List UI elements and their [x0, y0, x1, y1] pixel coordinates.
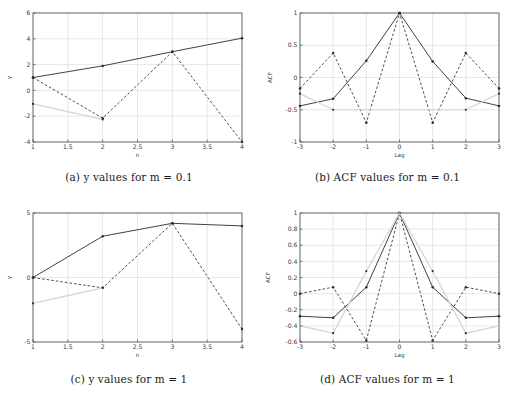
- x-axis-label: Lag: [394, 152, 405, 159]
- data-point-marker: [398, 12, 401, 15]
- y-tick-label: 0: [294, 290, 298, 297]
- axis-ticks: -3-2-10123-1-0.500.51: [286, 9, 502, 150]
- x-tick-label: 3.5: [202, 143, 212, 150]
- grid-lines: [33, 213, 242, 342]
- y-tick-label: -0.2: [286, 306, 298, 313]
- data-point-marker: [102, 287, 104, 289]
- isolated-data-marker: [299, 93, 301, 95]
- data-point-marker: [101, 235, 104, 238]
- plot-a-svg: 11.522.533.54-4-20246ny: [0, 0, 258, 170]
- data-point-marker: [299, 315, 302, 318]
- isolated-data-marker: [365, 270, 367, 272]
- data-point-marker: [32, 103, 34, 105]
- x-tick-label: 2: [464, 343, 468, 350]
- y-tick-label: 0.8: [288, 225, 298, 232]
- y-tick-label: -0.6: [286, 338, 298, 345]
- x-tick-label: 3: [170, 143, 174, 150]
- x-tick-label: 2.5: [133, 143, 143, 150]
- x-tick-label: -1: [363, 143, 369, 150]
- x-tick-label: -2: [330, 343, 336, 350]
- axis-ticks: 11.522.533.54-4-20246: [24, 9, 244, 150]
- y-tick-label: 0.6: [288, 241, 298, 248]
- x-tick-label: -1: [363, 343, 369, 350]
- x-tick-label: -3: [297, 143, 303, 150]
- isolated-data-marker: [332, 109, 334, 111]
- y-tick-label: -0.5: [286, 106, 298, 113]
- plot-d-canvas: -3-2-10123-0.6-0.4-0.200.20.40.60.81LagA…: [258, 200, 517, 372]
- caption-b: (b) ACF values for m = 0.1: [258, 171, 517, 183]
- data-point-marker: [332, 98, 335, 101]
- data-point-marker: [498, 292, 501, 295]
- data-point-marker: [171, 222, 174, 225]
- x-tick-label: 3: [497, 143, 501, 150]
- y-tick-label: 2: [27, 61, 31, 68]
- y-tick-label: 4: [27, 35, 31, 42]
- x-tick-label: 2: [101, 143, 105, 150]
- grid-lines: [33, 13, 242, 142]
- data-point-marker: [332, 286, 335, 289]
- data-point-marker: [365, 121, 368, 124]
- y-tick-label: -5: [24, 338, 30, 345]
- y-tick-label: 1: [294, 9, 298, 16]
- y-tick-label: -4: [24, 138, 30, 145]
- grid-lines: [300, 213, 499, 342]
- data-point-marker: [431, 286, 434, 289]
- x-tick-label: 1.5: [63, 343, 73, 350]
- plot-b-canvas: -3-2-10123-1-0.500.51LagACF: [258, 0, 517, 170]
- x-tick-label: 3.5: [202, 343, 212, 350]
- data-point-marker: [32, 302, 34, 304]
- y-axis-label: y: [6, 75, 13, 79]
- isolated-data-marker: [465, 109, 467, 111]
- y-axis-label: ACF: [267, 72, 273, 83]
- data-point-marker: [241, 225, 244, 228]
- data-point-marker: [299, 87, 302, 90]
- x-axis-label: n: [136, 352, 140, 358]
- caption-a: (a) y values for m = 0.1: [0, 171, 258, 183]
- data-point-marker: [332, 317, 335, 320]
- plot-b-svg: -3-2-10123-1-0.500.51LagACF: [258, 0, 517, 170]
- axis-ticks: -3-2-10123-0.6-0.4-0.200.20.40.60.81: [286, 209, 502, 350]
- y-tick-label: 1: [294, 209, 298, 216]
- y-tick-label: -2: [24, 112, 30, 119]
- subfigure-c: 11.522.533.54-505ny (c) y values for m =…: [0, 200, 258, 403]
- x-tick-label: 0: [398, 143, 402, 150]
- data-point-marker: [299, 105, 302, 108]
- data-point-marker: [241, 37, 244, 40]
- plot-a-canvas: 11.522.533.54-4-20246ny: [0, 0, 258, 170]
- data-point-marker: [32, 76, 35, 79]
- x-tick-label: 1: [31, 143, 35, 150]
- x-axis-label: n: [136, 152, 140, 158]
- y-tick-label: 0.4: [288, 258, 298, 265]
- x-tick-label: 1: [431, 343, 435, 350]
- figure-grid: 11.522.533.54-4-20246ny (a) y values for…: [0, 0, 517, 403]
- data-point-marker: [102, 118, 104, 120]
- y-axis-label: ACF: [265, 272, 271, 283]
- data-point-marker: [465, 286, 468, 289]
- x-tick-label: 3: [497, 343, 501, 350]
- y-tick-label: 0.2: [288, 274, 298, 281]
- y-tick-label: 0.5: [288, 41, 298, 48]
- data-point-marker: [171, 50, 174, 53]
- y-tick-label: -1: [291, 138, 297, 145]
- data-point-marker: [431, 121, 434, 124]
- plot-d-svg: -3-2-10123-0.6-0.4-0.200.20.40.60.81LagA…: [258, 200, 517, 372]
- plot-c-canvas: 11.522.533.54-505ny: [0, 200, 258, 372]
- x-tick-label: 3: [170, 343, 174, 350]
- x-tick-label: 4: [240, 343, 244, 350]
- y-tick-label: 6: [27, 9, 31, 16]
- x-tick-label: -3: [297, 343, 303, 350]
- data-point-marker: [498, 87, 501, 90]
- data-point-marker: [431, 60, 434, 63]
- isolated-data-marker: [498, 93, 500, 95]
- x-tick-label: 2: [101, 343, 105, 350]
- data-point-marker: [465, 317, 468, 320]
- x-axis-label: Lag: [394, 352, 405, 359]
- x-tick-label: 0: [398, 343, 402, 350]
- plot-c-svg: 11.522.533.54-505ny: [0, 200, 258, 372]
- y-tick-label: 0: [27, 274, 31, 281]
- data-point-marker: [365, 286, 368, 289]
- isolated-data-marker: [432, 270, 434, 272]
- data-point-marker: [498, 105, 501, 108]
- caption-c: (c) y values for m = 1: [0, 373, 258, 385]
- subfigure-b: -3-2-10123-1-0.500.51LagACF (b) ACF valu…: [258, 0, 517, 200]
